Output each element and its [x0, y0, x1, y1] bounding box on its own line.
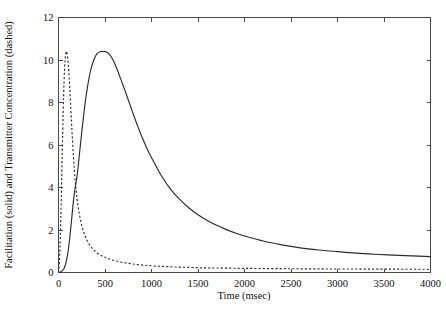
- y-axis-title: Facilitation (solid) and Transmitter Con…: [3, 21, 15, 269]
- line-chart: 05001000150020002500300035004000 0246810…: [0, 0, 446, 312]
- chart-background: [0, 0, 446, 312]
- x-tick-label: 0: [56, 278, 61, 289]
- y-tick-label: 4: [48, 182, 54, 193]
- y-tick-label: 12: [43, 12, 54, 23]
- y-tick-label: 8: [48, 97, 53, 108]
- x-tick-label: 3000: [327, 278, 348, 289]
- y-tick-label: 2: [48, 225, 53, 236]
- x-tick-label: 1500: [188, 278, 209, 289]
- x-tick-label: 4000: [420, 278, 441, 289]
- y-tick-label: 6: [48, 140, 53, 151]
- x-tick-label: 500: [97, 278, 113, 289]
- x-tick-label: 2000: [234, 278, 255, 289]
- y-tick-label: 10: [43, 55, 54, 66]
- y-tick-label: 0: [48, 267, 53, 278]
- chart-figure: 05001000150020002500300035004000 0246810…: [0, 0, 446, 312]
- x-axis-title: Time (msec): [218, 290, 271, 302]
- x-tick-label: 2500: [281, 278, 302, 289]
- x-tick-label: 3500: [374, 278, 395, 289]
- x-tick-label: 1000: [141, 278, 162, 289]
